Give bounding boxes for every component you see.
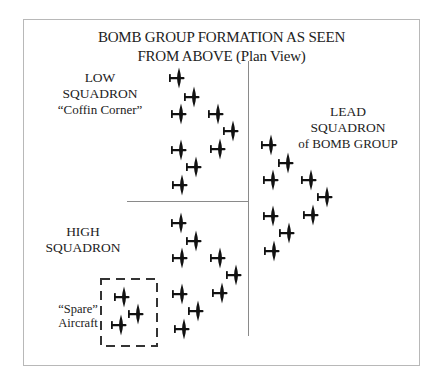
diagram-title: BOMB GROUP FORMATION AS SEEN FROM ABOVE …: [23, 28, 420, 66]
lead-label-line-1: LEAD: [288, 104, 408, 120]
title-line-1: BOMB GROUP FORMATION AS SEEN: [23, 28, 420, 47]
low-label-line-1: LOW: [50, 70, 150, 86]
lead-label-line-3: of BOMB GROUP: [288, 136, 408, 152]
high-label-line-2: SQUADRON: [38, 240, 128, 256]
high-label-line-1: HIGH: [38, 224, 128, 240]
bomber-aircraft-icon: [209, 281, 233, 305]
spare-label-line-1: “Spare”: [48, 302, 108, 316]
bomber-aircraft-icon: [169, 173, 193, 197]
high-squadron-label: HIGH SQUADRON: [38, 224, 128, 256]
bomber-aircraft-icon: [300, 203, 324, 227]
bomber-aircraft-icon: [169, 246, 193, 270]
bomber-aircraft-icon: [207, 137, 231, 161]
lead-label-line-2: SQUADRON: [288, 120, 408, 136]
bomber-aircraft-icon: [171, 317, 195, 341]
low-label-line-2: SQUADRON: [50, 86, 150, 102]
low-label-nickname: “Coffin Corner”: [50, 102, 150, 118]
squadron-divider-vertical: [248, 61, 249, 336]
bomber-aircraft-icon: [168, 102, 192, 126]
title-line-2: FROM ABOVE (Plan View): [23, 47, 420, 66]
squadron-divider-horizontal: [127, 201, 249, 202]
bomber-aircraft-icon: [261, 239, 285, 263]
bomber-aircraft-icon: [260, 168, 284, 192]
bomber-aircraft-icon: [108, 313, 132, 337]
low-squadron-label: LOW SQUADRON “Coffin Corner”: [50, 70, 150, 118]
lead-squadron-label: LEAD SQUADRON of BOMB GROUP: [288, 104, 408, 152]
spare-label-line-2: Aircraft: [48, 316, 108, 330]
spare-aircraft-label: “Spare” Aircraft: [48, 302, 108, 330]
